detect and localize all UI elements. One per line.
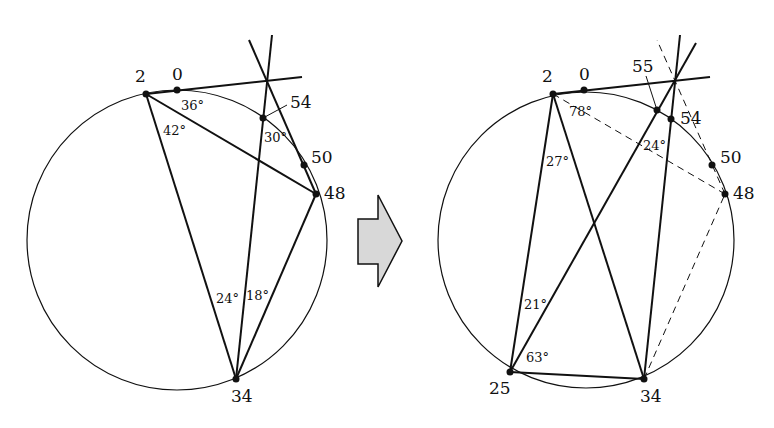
left-point-48 xyxy=(313,191,320,198)
left-label-54: 54 xyxy=(290,92,312,112)
left-line-34-top xyxy=(236,35,272,379)
left-label-48: 48 xyxy=(324,183,346,203)
left-angle-30: 30° xyxy=(264,130,287,145)
left-angle-36: 36° xyxy=(181,98,204,113)
right-label-55: 55 xyxy=(632,56,654,76)
right-point-25 xyxy=(507,369,514,376)
left-point-50 xyxy=(301,162,308,169)
left-labels: 2 0 54 50 48 34 36° 42° 30° 24° 18° xyxy=(135,64,346,406)
diagram-canvas: 2 0 54 50 48 34 36° 42° 30° 24° 18° xyxy=(0,0,774,428)
right-angle-27: 27° xyxy=(546,154,569,169)
right-point-48 xyxy=(722,191,729,198)
right-points xyxy=(507,87,729,383)
right-tangent-line xyxy=(553,77,710,94)
right-label-48: 48 xyxy=(733,183,755,203)
transform-arrow xyxy=(358,195,402,287)
right-point-54 xyxy=(668,116,675,123)
left-leader-54 xyxy=(263,105,287,118)
right-label-50: 50 xyxy=(720,147,742,167)
right-label-34: 34 xyxy=(640,386,662,406)
right-line-25-34 xyxy=(510,372,644,379)
left-point-0 xyxy=(174,87,181,94)
right-circle xyxy=(438,92,734,388)
left-angle-42: 42° xyxy=(163,123,186,138)
left-point-34 xyxy=(233,376,240,383)
right-line-2-34 xyxy=(553,94,644,379)
left-angle-24: 24° xyxy=(216,291,239,306)
left-label-34: 34 xyxy=(231,386,253,406)
right-line-25-top xyxy=(510,43,696,372)
right-point-34 xyxy=(641,376,648,383)
right-label-2: 2 xyxy=(542,66,553,86)
left-line-2-34 xyxy=(146,94,236,379)
left-tangent-line xyxy=(146,77,302,94)
right-label-0: 0 xyxy=(579,64,590,84)
right-label-54: 54 xyxy=(680,108,702,128)
right-angle-63: 63° xyxy=(526,350,549,365)
right-angle-21: 21° xyxy=(524,297,547,312)
left-line-34-48 xyxy=(236,194,316,379)
right-point-2 xyxy=(550,91,557,98)
right-labels: 2 0 55 54 50 48 25 34 78° 27° 24° 21° 63… xyxy=(489,56,755,406)
right-label-25: 25 xyxy=(489,378,511,398)
right-point-55 xyxy=(654,107,661,114)
right-line-2-25 xyxy=(510,94,553,372)
right-point-50 xyxy=(709,162,716,169)
right-angle-78: 78° xyxy=(569,104,592,119)
left-point-54 xyxy=(260,115,267,122)
right-angle-24: 24° xyxy=(643,138,666,153)
left-label-50: 50 xyxy=(311,147,333,167)
left-angle-18: 18° xyxy=(246,288,269,303)
left-point-2 xyxy=(143,91,150,98)
left-label-2: 2 xyxy=(135,66,146,86)
right-point-0 xyxy=(581,87,588,94)
left-label-0: 0 xyxy=(172,64,183,84)
left-line-48-top xyxy=(249,40,316,194)
